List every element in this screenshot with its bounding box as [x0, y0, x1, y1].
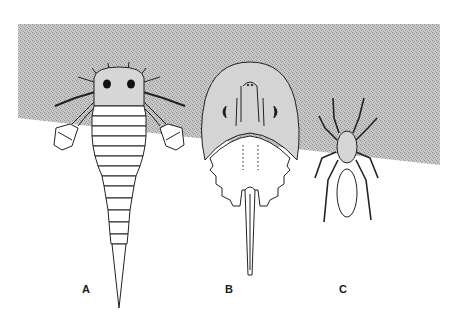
eurypterid-drawing — [54, 62, 185, 308]
horseshoe-crab-drawing — [202, 62, 300, 275]
panel-label-b: B — [225, 283, 233, 295]
arthropod-comparison-figure — [0, 0, 458, 328]
panel-label-a: A — [82, 283, 90, 295]
panel-label-c: C — [339, 283, 347, 295]
